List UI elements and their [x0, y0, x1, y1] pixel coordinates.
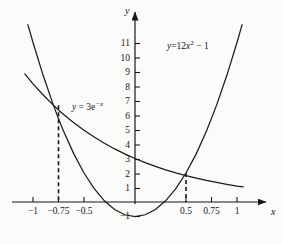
y-tick-label-11: 11 — [106, 39, 130, 49]
x-tick-label-neg05: −0.5 — [67, 207, 101, 217]
exponential-label-exponent: −x — [95, 100, 103, 108]
parabola-label-rhs: − 1 — [194, 41, 209, 51]
curve-label-exponential: y = 3e−x — [72, 103, 103, 113]
y-tick-label-4: 4 — [106, 141, 130, 151]
x-tick-label-1: 1 — [220, 207, 254, 217]
y-tick-label-5: 5 — [106, 126, 130, 136]
y-tick-label-3: 3 — [106, 155, 130, 165]
y-tick-label-8: 8 — [106, 83, 130, 93]
curve-exponential — [25, 74, 243, 187]
x-axis-label: x — [271, 207, 275, 217]
y-tick-label-7: 7 — [106, 97, 130, 107]
y-tick-label-10: 10 — [106, 54, 130, 64]
y-tick-label-2: 2 — [106, 170, 130, 180]
y-tick-label-1: 1 — [106, 184, 130, 194]
y-tick-label-6: 6 — [106, 112, 130, 122]
y-tick-label-neg1: −1 — [106, 212, 130, 222]
curve-label-parabola: y=12x2 − 1 — [167, 42, 209, 52]
y-axis-label: y — [125, 6, 129, 16]
y-axis-ticks — [135, 44, 140, 217]
graph-figure: 11 10 9 8 7 6 5 4 3 2 1 −1 −1 −0.75 −0.5… — [0, 0, 282, 244]
parabola-label-eq: =12 — [171, 41, 186, 51]
y-tick-label-9: 9 — [106, 68, 130, 78]
exponential-label-eq: = 3 — [76, 102, 91, 112]
